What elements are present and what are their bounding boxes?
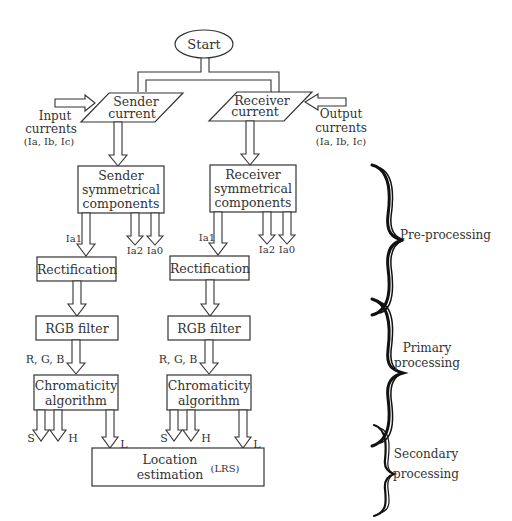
arrow-receiver-rgb: [200, 340, 218, 374]
arrow-sender-ia2: [127, 213, 143, 245]
sender-s-label: S: [27, 432, 35, 445]
input-label-1: Input: [39, 109, 72, 123]
arrow-sender-rgb: [67, 340, 85, 374]
sender-chromaticity-label-1: Chromaticity: [35, 378, 118, 393]
arrow-receiver-h: [183, 410, 199, 441]
receiver-rectification-label: Rectification: [170, 261, 250, 276]
flowchart: Start Sender current Receiver current In…: [0, 0, 512, 521]
stage-primary-line-2: processing: [394, 356, 460, 370]
receiver-h-label: H: [201, 432, 211, 445]
sender-chromaticity-label-2: algorithm: [45, 393, 107, 408]
sender-current-label-2: current: [108, 106, 155, 121]
receiver-rgb-label: R, G, B: [159, 353, 198, 366]
location-label-2: estimation: [137, 467, 204, 482]
arrow-sender-ia0: [147, 213, 163, 245]
sender-h-label: H: [68, 432, 78, 445]
split-connector-outer: [138, 58, 279, 92]
brace-primary-processing: [372, 299, 403, 446]
arrow-receiver-s: [166, 410, 182, 441]
split-connector-inner: [146, 80, 271, 92]
arrow-receiver-l: [235, 410, 251, 448]
arrow-receiver-ia0: [279, 212, 295, 244]
lrs-label: (LRS): [211, 463, 240, 474]
arrow-sender-h: [50, 410, 66, 441]
receiver-ia2-label: Ia2: [259, 244, 275, 255]
stage-secondary-line-1: Secondary: [394, 447, 459, 461]
receiver-ia1-label: Ia1: [199, 232, 215, 243]
output-label-2: currents: [315, 121, 367, 135]
arrow-receiver-to-sym: [241, 121, 259, 165]
receiver-chromaticity-label-2: algorithm: [178, 393, 240, 408]
sender-sym-label-2: symmetrical: [82, 182, 160, 197]
arrow-sender-to-sym: [109, 122, 127, 166]
stage-secondary-line-2: processing: [393, 467, 459, 481]
receiver-sym-label-1: Receiver: [225, 167, 281, 182]
input-label-3: (Ia, Ib, Ic): [24, 136, 74, 147]
arrow-sender-s: [33, 410, 49, 441]
start-label: Start: [187, 37, 221, 52]
location-label-1: Location: [143, 452, 198, 467]
output-label-1: Output: [320, 107, 363, 121]
stage-pre-processing: Pre-processing: [400, 228, 491, 242]
sender-ia0-label: Ia0: [147, 245, 163, 256]
arrow-sender-l: [102, 410, 118, 448]
receiver-current-label-2: current: [231, 104, 278, 119]
sender-sym-label-3: components: [83, 196, 160, 211]
receiver-sym-label-3: components: [215, 195, 292, 210]
sender-ia2-label: Ia2: [127, 245, 143, 256]
sender-sym-label-1: Sender: [98, 168, 143, 183]
brace-secondary-processing: [374, 425, 394, 516]
receiver-s-label: S: [160, 432, 168, 445]
arrow-receiver-ia2: [259, 212, 275, 244]
arrow-receiver-to-rgb: [201, 280, 219, 316]
brace-pre-processing: [372, 165, 403, 315]
sender-rgb-label: R, G, B: [26, 353, 65, 366]
sender-ia1-label: Ia1: [66, 233, 82, 244]
input-label-2: currents: [25, 122, 77, 136]
arrow-sender-to-rgb: [68, 281, 86, 316]
stage-primary-line-1: Primary: [403, 341, 452, 355]
output-label-3: (Ia, Ib, Ic): [316, 136, 366, 147]
receiver-sym-label-2: symmetrical: [214, 181, 292, 196]
sender-rectification-label: Rectification: [37, 262, 117, 277]
receiver-ia0-label: Ia0: [279, 244, 295, 255]
receiver-rgb-filter-label: RGB filter: [177, 321, 240, 336]
sender-rgb-filter-label: RGB filter: [45, 321, 108, 336]
receiver-chromaticity-label-1: Chromaticity: [168, 378, 251, 393]
